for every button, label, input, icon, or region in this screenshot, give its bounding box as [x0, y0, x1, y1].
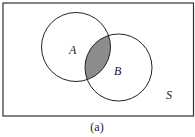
set-a-label: A	[68, 43, 77, 57]
venn-diagram: A B S (a)	[0, 0, 195, 137]
set-b-label: B	[114, 64, 122, 78]
figure-caption: (a)	[90, 120, 103, 134]
universe-label: S	[166, 88, 172, 102]
